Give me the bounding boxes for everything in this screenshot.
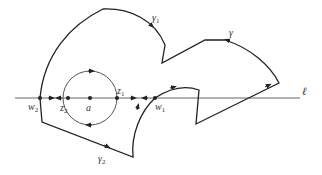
gamma-curve <box>155 40 279 124</box>
gamma1-curve <box>40 9 225 98</box>
label-gamma1: γ1 <box>152 12 160 25</box>
label-w2: w2 <box>28 101 39 114</box>
point-a <box>88 96 92 100</box>
point-w2 <box>38 96 42 100</box>
arrow-icon <box>150 24 152 26</box>
arrow-icon <box>265 85 269 87</box>
label-z2: z2 <box>59 102 68 115</box>
contour-diagram: w2 z2 a z1 w1 γ1 γ γ2 ℓ <box>0 0 322 175</box>
label-gamma: γ <box>229 27 234 38</box>
label-gamma2: γ2 <box>98 153 106 166</box>
label-line-l: ℓ <box>302 85 307 97</box>
arrow-icon <box>170 87 174 88</box>
point-w1 <box>153 96 157 100</box>
arrow-icon <box>137 106 138 110</box>
point-z2 <box>66 96 70 100</box>
label-w1: w1 <box>155 101 166 114</box>
label-a: a <box>86 102 91 113</box>
point-z1 <box>115 96 119 100</box>
